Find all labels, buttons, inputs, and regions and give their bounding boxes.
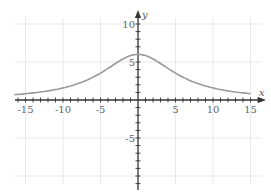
y-axis-label: y: [141, 9, 148, 20]
x-tick-label: -15: [17, 104, 33, 115]
x-tick-label: -10: [55, 104, 71, 115]
y-axis-arrow-icon: [135, 10, 141, 18]
y-tick-label: 5: [129, 57, 135, 68]
tick-labels: -15-10-551015105-5: [17, 19, 256, 144]
x-tick-label: 5: [172, 104, 178, 115]
x-tick-label: -5: [96, 104, 106, 115]
chart: x y -15-10-551015105-5: [0, 0, 271, 196]
y-tick-label: 10: [122, 19, 135, 30]
x-tick-label: 10: [207, 104, 220, 115]
y-tick-label: -5: [125, 133, 135, 144]
x-tick-label: 15: [244, 104, 257, 115]
axes: x y: [15, 9, 266, 190]
x-axis-label: x: [259, 87, 265, 98]
